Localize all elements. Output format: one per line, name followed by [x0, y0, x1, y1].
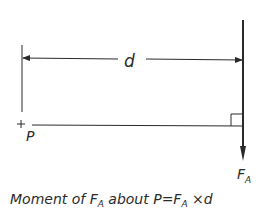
- caption-part3: ×d: [188, 191, 213, 207]
- caption-f1-sub: A: [97, 199, 104, 209]
- right-angle-marker: [231, 114, 243, 126]
- moment-diagram: d P FA Moment of FA about P=FA ×d: [0, 0, 268, 213]
- caption-f2-sub: A: [180, 199, 187, 209]
- dimension-label-d: d: [124, 51, 135, 71]
- point-label-p: P: [26, 128, 35, 144]
- caption: Moment of FA about P=FA ×d: [10, 191, 213, 209]
- dimension-line-right: [146, 59, 242, 60]
- caption-part1: Moment of: [10, 191, 90, 207]
- force-label: FA: [237, 166, 251, 185]
- force-arrowhead: [240, 146, 246, 161]
- perpendicular-line: [32, 125, 243, 126]
- caption-part2: about P=: [104, 191, 173, 207]
- force-label-sub: A: [244, 175, 251, 185]
- dimension-line-left: [23, 58, 118, 59]
